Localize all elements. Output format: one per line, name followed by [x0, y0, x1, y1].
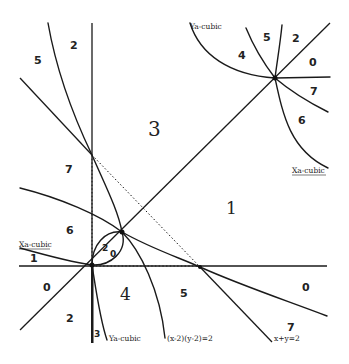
region-label: 7 — [287, 321, 295, 334]
region-label: 3 — [94, 329, 100, 339]
curve-label-xa-cubic-topright: Xa-cubic — [292, 166, 325, 175]
curve-label-x-plus-y: x+y=2 — [274, 334, 300, 343]
region-label: 7 — [310, 85, 318, 98]
node-x-intercept — [198, 265, 202, 269]
region-label: 2 — [70, 39, 78, 52]
region-label: 6 — [66, 224, 74, 237]
region-label: 0 — [309, 56, 317, 69]
region-label: 0 — [43, 281, 51, 294]
node-lens-top — [120, 230, 125, 235]
region-label: 0 — [110, 249, 116, 259]
curve-label-xa-cubic-left: Xa-cubic — [19, 240, 52, 249]
region-label: 2 — [102, 243, 108, 253]
region-label-large: 3 — [148, 117, 161, 141]
region-label: 2 — [66, 312, 74, 325]
region-label: 5 — [180, 287, 188, 300]
curve-label-ya-cubic-topright: Ya-cubic — [189, 22, 222, 31]
region-label: 1 — [30, 252, 38, 265]
region-label: 5 — [263, 31, 271, 44]
region-label: 5 — [34, 54, 42, 67]
curve-topright-5-2 — [275, 25, 282, 78]
region-label: 2 — [292, 32, 300, 45]
curve-topright-7-6 — [275, 78, 328, 112]
curve-label-ya-cubic-bottom: Ya-cubic — [108, 334, 141, 343]
region-label: 7 — [65, 163, 73, 176]
region-label: 6 — [298, 114, 306, 127]
region-label-large: 4 — [120, 284, 131, 304]
node-origin — [90, 263, 95, 268]
line-upper-left — [20, 78, 92, 155]
region-label: 0 — [302, 281, 310, 294]
region-label-large: 1 — [226, 198, 237, 218]
node-top-right — [273, 76, 278, 81]
diagonal-line-y-equals-x — [20, 23, 330, 330]
region-label: 4 — [238, 49, 246, 62]
phase-diagram: 5 2 3 7 1 6 1 2 0 0 2 3 4 5 0 7 4 5 2 0 … — [0, 0, 349, 364]
line-x-plus-y-equals-2 — [200, 267, 272, 342]
curve-left-to-right-descending — [20, 188, 327, 316]
line-topright-0-7 — [275, 77, 330, 78]
curve-label-hyperbola: (x-2)(y-2)=2 — [167, 334, 213, 343]
